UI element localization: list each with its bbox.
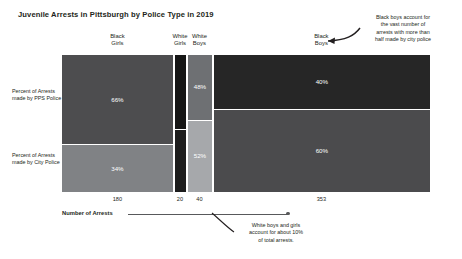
axis-tick-black-boys: 353: [213, 196, 430, 202]
mosaic-segment-black-boys-city[interactable]: 60%: [214, 110, 430, 192]
annotation-white-share: White boys and girls account for about 1…: [224, 222, 328, 244]
x-axis-rule: [128, 214, 288, 215]
segment-value-label: 52%: [194, 153, 206, 159]
column-header-white-boys: White Boys: [186, 33, 212, 48]
column-header-black-girls: Black Girls: [62, 33, 173, 48]
row-label-city-police: Percent of Arrests made by City Police: [12, 152, 62, 166]
mosaic-segment-white-girls-city[interactable]: 45%: [175, 130, 186, 192]
mosaic-segment-white-girls-pps[interactable]: 55%: [175, 55, 186, 130]
mosaic-segment-white-boys-city[interactable]: 52%: [188, 121, 212, 192]
segment-value-label: 34%: [111, 166, 123, 172]
mosaic-segment-black-girls-pps[interactable]: 66%: [62, 55, 173, 145]
mosaic-segment-black-boys-pps[interactable]: 40%: [214, 55, 430, 110]
mosaic-column-black-girls[interactable]: 66% 34%: [62, 55, 173, 192]
axis-tick-black-girls: 180: [62, 196, 173, 202]
segment-value-label: 40%: [316, 79, 328, 85]
page-title: Juvenile Arrests in Pittsburgh by Police…: [18, 10, 214, 19]
mosaic-column-white-boys[interactable]: 48% 52%: [187, 55, 212, 192]
mosaic-segment-white-boys-pps[interactable]: 48%: [188, 55, 212, 121]
annotation-black-boys: Black boys account for the vast number o…: [350, 14, 456, 43]
x-axis-title: Number of Arrests: [62, 210, 113, 216]
mosaic-column-black-boys[interactable]: 40% 60%: [213, 55, 430, 192]
row-label-pps-police: Percent of Arrests made by PPS Police: [12, 88, 62, 102]
segment-value-label: 60%: [316, 148, 328, 154]
mosaic-column-white-girls[interactable]: 55% 45%: [174, 55, 186, 192]
axis-tick-white-boys: 40: [187, 196, 212, 202]
mosaic-chart-plot-area: 66% 34% 55% 45% 48% 52% 40% 60%: [62, 55, 430, 192]
segment-value-label: 48%: [194, 84, 206, 90]
segment-value-label: 66%: [111, 97, 123, 103]
mosaic-segment-black-girls-city[interactable]: 34%: [62, 145, 173, 192]
x-axis-rule-endpoint: [286, 212, 290, 216]
